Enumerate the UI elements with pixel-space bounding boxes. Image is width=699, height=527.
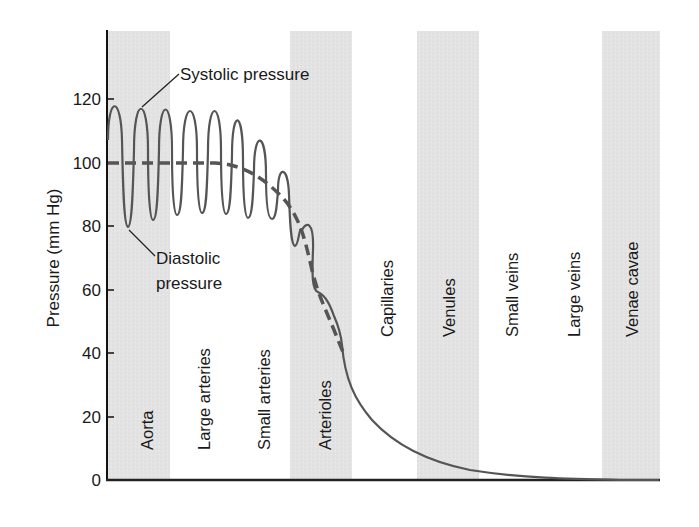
diastolic-annotation-line2: pressure bbox=[156, 274, 222, 293]
label-venules: Venules bbox=[440, 278, 458, 337]
tick-60: 60 bbox=[82, 281, 101, 300]
y-axis-label: Pressure (mm Hg) bbox=[44, 189, 63, 328]
band-venules bbox=[417, 31, 479, 480]
diastolic-annotation-line1: Diastolic bbox=[156, 249, 221, 268]
y-tick-labels: 0 20 40 60 80 100 120 bbox=[73, 90, 101, 490]
tick-120: 120 bbox=[73, 90, 101, 109]
tick-40: 40 bbox=[82, 344, 101, 363]
systolic-annotation: Systolic pressure bbox=[180, 65, 309, 84]
label-small-arteries: Small arteries bbox=[255, 349, 273, 450]
label-venae-cavae: Venae cavae bbox=[623, 242, 641, 337]
segment-labels: Aorta Large arteries Small arteries Arte… bbox=[138, 242, 641, 450]
tick-20: 20 bbox=[82, 408, 101, 427]
label-small-veins: Small veins bbox=[503, 253, 521, 337]
tick-80: 80 bbox=[82, 217, 101, 236]
label-large-veins: Large veins bbox=[565, 252, 583, 337]
tick-100: 100 bbox=[73, 154, 101, 173]
label-arterioles: Arterioles bbox=[316, 380, 334, 450]
pressure-chart: 0 20 40 60 80 100 120 Pressure (mm Hg) A… bbox=[0, 0, 699, 527]
label-large-arteries: Large arteries bbox=[195, 348, 213, 450]
label-aorta: Aorta bbox=[138, 410, 156, 450]
tick-0: 0 bbox=[92, 471, 101, 490]
label-capillaries: Capillaries bbox=[378, 260, 396, 337]
